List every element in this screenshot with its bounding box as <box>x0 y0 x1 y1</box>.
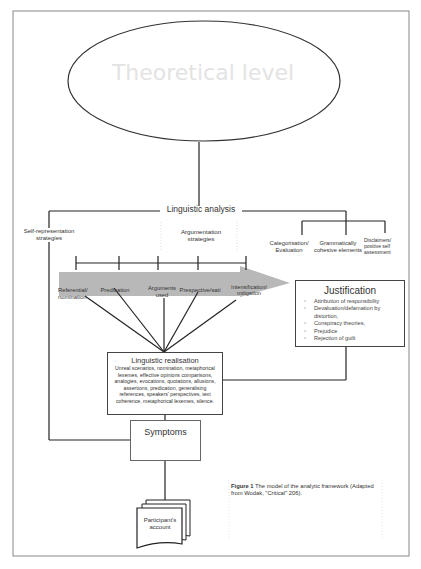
participant-account-label: Participant's account <box>139 517 181 531</box>
linguistic-realisation-box: Linguistic realisation Unreal scenarios,… <box>107 352 223 415</box>
justification-item: Prejudice <box>304 328 404 335</box>
caption-label: Figure 1 <box>231 483 254 489</box>
justification-item: Conspiracy theories, <box>304 320 404 327</box>
justification-item: Rejection of guilt <box>304 335 404 342</box>
justification-box: Justification Attribution of responsibil… <box>295 280 405 347</box>
branch-categorisation: Categorisation/ Evaluation <box>264 240 314 253</box>
justification-item: Devaluation/defamation by distortion, <box>304 305 404 320</box>
realisation-body: Unreal scenarios, nomination, metaphoric… <box>108 365 222 405</box>
justification-title: Justification <box>296 285 404 296</box>
justification-item: Attribution of responsibility <box>304 298 404 305</box>
branch-disclaimers: Disclaimers/ positive self assessment <box>364 238 404 255</box>
figure-caption: Figure 1 The model of the analytic frame… <box>231 483 381 497</box>
argumentation-label: Argumentation strategies <box>176 228 226 242</box>
stage-intensification: Intensification/ mitigation <box>224 284 274 297</box>
stage-arguments: Arguments used <box>144 285 180 298</box>
branch-cohesive: Grammatically cohesive elements <box>314 240 362 253</box>
justification-list: Attribution of responsibility Devaluatio… <box>296 298 404 342</box>
symptoms-label: Symptoms <box>131 427 200 437</box>
realisation-title: Linguistic realisation <box>108 356 222 365</box>
theoretical-level-label: Theoretical level <box>67 60 339 85</box>
stage-perspectivisation: Prespective/sati <box>178 287 222 294</box>
linguistic-analysis-label: Linguistic analysis <box>160 205 242 215</box>
self-representation-label: Self-representation strategies <box>16 228 82 242</box>
symptoms-box: Symptoms <box>130 420 201 461</box>
stage-predication: Predication <box>98 287 132 294</box>
